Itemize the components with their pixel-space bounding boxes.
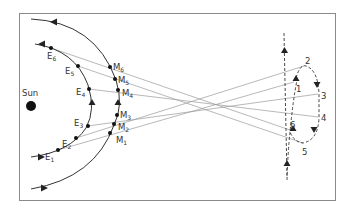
mars-point-1 <box>108 131 112 135</box>
earth-label-4: E4 <box>76 87 85 98</box>
mars-point-6 <box>108 65 112 69</box>
earth-label-6: E6 <box>47 51 56 62</box>
earth-label-2: E2 <box>62 139 71 150</box>
mars-label-1: M1 <box>116 135 127 146</box>
arrow-icon <box>281 47 288 53</box>
earth-point-1 <box>56 148 60 152</box>
apparent-label-3: 3 <box>321 91 326 101</box>
orbit-direction-arrows <box>38 19 122 192</box>
mars-point-3 <box>115 113 119 117</box>
sight-line-1 <box>58 82 294 150</box>
arrow-icon <box>293 75 300 81</box>
arrow-icon <box>38 41 45 48</box>
earth-point-2 <box>74 136 78 140</box>
apparent-label-6: 6 <box>290 120 295 130</box>
arrow-icon <box>284 160 291 166</box>
diagram-frame <box>20 14 336 201</box>
arrow-icon <box>50 19 57 26</box>
mars-point-4 <box>116 88 120 92</box>
earth-label-3: E3 <box>74 118 83 129</box>
earth-label-5: E5 <box>65 66 74 77</box>
mars-label-3: M3 <box>120 110 131 121</box>
apparent-label-2: 2 <box>305 56 310 66</box>
earth-label-1: E1 <box>45 152 54 163</box>
arrow-icon <box>89 99 96 105</box>
mars-label-6: M6 <box>113 62 124 73</box>
arrow-icon <box>115 99 122 105</box>
earth-point-6 <box>49 46 53 50</box>
mars-label-2: M2 <box>118 122 129 133</box>
earth-point-4 <box>87 87 91 91</box>
apparent-path-arrows <box>281 47 321 166</box>
apparent-path-main <box>284 33 287 178</box>
mars-label-4: M4 <box>122 88 133 99</box>
apparent-label-1: 1 <box>296 84 301 94</box>
mars-point-2 <box>112 122 116 126</box>
earth-point-5 <box>76 64 80 68</box>
earth-point-3 <box>86 124 90 128</box>
sun-label: Sun <box>22 88 38 98</box>
mars-label-5: M5 <box>118 75 129 86</box>
apparent-path <box>284 33 319 180</box>
arrow-icon <box>314 82 321 88</box>
apparent-label-4: 4 <box>321 113 326 123</box>
retrograde-motion-diagram: Sun E1 E2 E3 E4 E5 E6 M1 M2 M3 M4 M5 M6 <box>0 0 352 214</box>
apparent-labels: 1 2 3 4 5 6 <box>290 56 326 157</box>
apparent-label-5: 5 <box>302 147 307 157</box>
sun-icon <box>26 101 36 111</box>
mars-point-5 <box>113 77 117 81</box>
